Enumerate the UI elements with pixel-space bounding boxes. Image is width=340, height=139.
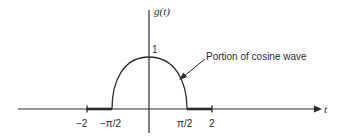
tick-label-neg-pi-half: −π/2 xyxy=(100,118,122,129)
tick-label-neg-two: −2 xyxy=(76,118,88,129)
x-axis-label: t xyxy=(324,103,328,115)
diagram-canvas: g(t) t 1 Portion of cosine wave −2 −π/2 … xyxy=(0,0,340,139)
tick-label-pi-half: π/2 xyxy=(177,118,193,129)
tick-label-two: 2 xyxy=(209,118,215,129)
annotation-label: Portion of cosine wave xyxy=(206,51,307,62)
x-axis-arrow-icon xyxy=(314,106,322,113)
y-axis-label: g(t) xyxy=(154,5,170,18)
peak-label: 1 xyxy=(152,44,158,55)
annotation-arrow-line xyxy=(183,59,205,77)
